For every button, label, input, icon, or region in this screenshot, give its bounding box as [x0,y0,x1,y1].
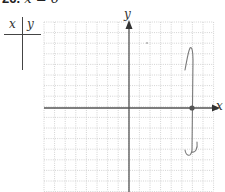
xy-table [4,17,41,70]
plotted-point [189,105,194,110]
y-axis-arrow-icon [126,20,133,29]
x-axis-label: x [216,99,223,113]
handwritten-vertical-line [185,48,197,156]
y-axis-label: y [124,7,131,21]
coordinate-graph [0,0,225,192]
